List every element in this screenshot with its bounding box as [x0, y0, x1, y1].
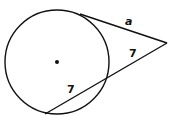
geometry-diagram: a 7 7: [0, 0, 171, 115]
center-point: [55, 60, 59, 64]
tangent-segment: [80, 14, 167, 43]
secant-line: [45, 43, 167, 114]
label-secant-external: 7: [129, 47, 137, 60]
label-secant-chord: 7: [67, 83, 75, 96]
label-tangent-a: a: [125, 15, 132, 28]
